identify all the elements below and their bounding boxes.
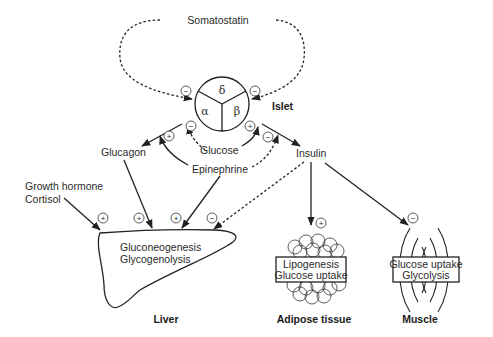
effect-sign-glyphs: − − − + + − + + + − + − [101, 87, 416, 228]
effect-signs [98, 86, 418, 228]
plus-icon: + [101, 214, 106, 223]
beta-cell-label: β [234, 105, 240, 118]
glucagon-label: Glucagon [101, 146, 146, 158]
glucose-regulation-diagram: Somatostatin δ α β Islet Glucagon Glucos… [0, 0, 493, 337]
adipose-process-glucose-uptake: Glucose uptake [275, 269, 348, 281]
minus-icon: − [253, 87, 258, 96]
liver: Gluconeogenesis Glycogenolysis Liver [98, 230, 236, 325]
gh-cortisol-to-liver-arrow [64, 198, 100, 230]
muscle-process-glycolysis: Glycolysis [402, 269, 449, 281]
somatostatin-loop: Somatostatin [120, 13, 305, 99]
islet-label: Islet [272, 100, 294, 112]
liver-process-gluconeogenesis: Gluconeogenesis [120, 241, 201, 253]
minus-icon: − [189, 122, 194, 131]
adipose-label: Adipose tissue [277, 313, 352, 325]
delta-cell-label: δ [219, 84, 226, 97]
muscle: Glucose uptake Glycolysis Muscle [390, 228, 463, 325]
cortisol-label: Cortisol [25, 193, 61, 205]
muscle-label: Muscle [402, 313, 438, 325]
alpha-cell-label: α [201, 105, 209, 118]
somatostatin-label: Somatostatin [187, 14, 248, 26]
islet: δ α β Islet [195, 77, 294, 131]
minus-icon: − [184, 87, 189, 96]
minus-icon: − [266, 133, 271, 142]
minus-icon: − [411, 214, 416, 223]
plus-icon: + [319, 219, 324, 228]
insulin-label: Insulin [296, 147, 327, 159]
plus-icon: + [248, 122, 253, 131]
plus-icon: + [137, 214, 142, 223]
epinephrine-to-glucagon-arrow [160, 136, 188, 165]
liver-label: Liver [153, 313, 178, 325]
insulin-to-muscle-arrow [325, 163, 408, 225]
epinephrine-label: Epinephrine [192, 163, 248, 175]
liver-process-glycogenolysis: Glycogenolysis [120, 253, 191, 265]
adipose-tissue: Lipogenesis Glucose uptake Adipose tissu… [275, 234, 352, 325]
plus-icon: + [174, 214, 179, 223]
glucose-label: Glucose [200, 144, 239, 156]
plus-icon: + [167, 132, 172, 141]
growth-hormone-label: Growth hormone [25, 180, 103, 192]
minus-icon: − [210, 214, 215, 223]
alpha-to-glucagon-arrow [142, 124, 182, 146]
